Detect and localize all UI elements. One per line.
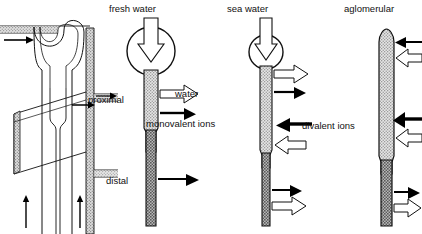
cutaway-shaft-right-inner	[60, 88, 66, 234]
monovalent-ions-label: monovalent ions	[146, 118, 215, 129]
sea-water-distal-solid-arrow	[272, 185, 302, 197]
aglomerular-proximal-segment	[379, 29, 394, 174]
aglomerular-top-open-arrow	[396, 49, 422, 67]
panel-cutaway	[0, 20, 118, 234]
aglomerular-mid-solid-arrow	[393, 112, 422, 128]
upflow-arrow-left	[23, 195, 29, 228]
aglomerular-distal-open-arrow	[394, 199, 421, 217]
figure-canvas: fresh water proximal water monovalent io…	[0, 0, 422, 234]
aglomerular-distal-segment	[381, 160, 392, 226]
sea-water-water-in-arrow	[275, 136, 306, 154]
upflow-arrow-right	[77, 195, 83, 228]
sea-water-ions-out-arrow	[274, 87, 306, 99]
aglomerular-mid-open-arrow	[396, 129, 422, 147]
panel-fresh-water: fresh water proximal water monovalent io…	[88, 3, 215, 226]
panel-aglomerular: aglomerular	[344, 3, 422, 226]
divalent-ions-label: divalent ions	[302, 120, 355, 131]
fresh-water-distal-segment	[146, 130, 156, 226]
aglomerular-top-solid-arrow	[395, 37, 422, 48]
panel-sea-water: sea water divalent ions	[227, 3, 355, 226]
nephron-comparison-figure: fresh water proximal water monovalent io…	[0, 0, 422, 234]
distal-label: distal	[106, 175, 128, 186]
cutaway-right-wall	[86, 28, 94, 234]
sea-water-distal-segment	[262, 153, 270, 226]
aglomerular-title: aglomerular	[344, 3, 394, 14]
fresh-water-title: fresh water	[109, 3, 156, 14]
sea-water-distal-open-arrow	[272, 197, 306, 215]
aglomerular-distal-solid-arrow	[394, 187, 420, 199]
fresh-water-distal-arrow	[158, 174, 199, 186]
proximal-label: proximal	[88, 94, 124, 105]
sea-water-title: sea water	[227, 3, 268, 14]
sea-water-water-out-arrow	[274, 65, 308, 83]
cutaway-inlet-fill	[0, 26, 58, 33]
water-label: water	[174, 88, 198, 99]
cutaway-plate-1-bottom	[14, 152, 86, 174]
inflow-arrow	[4, 36, 34, 44]
